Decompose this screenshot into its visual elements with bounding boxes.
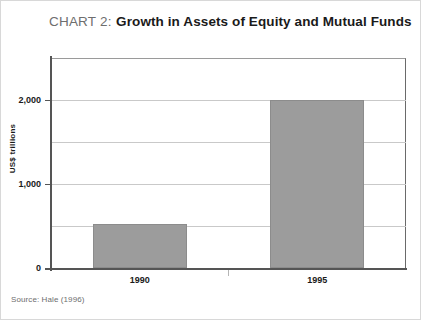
title-main: Growth in Assets of Equity and Mutual Fu…	[116, 14, 412, 29]
y-axis-tick-label: 0	[0, 263, 41, 273]
chart-page: CHART 2: Growth in Assets of Equity and …	[0, 0, 421, 320]
page-title: CHART 2: Growth in Assets of Equity and …	[49, 12, 409, 32]
y-axis-tick-label: 1,000	[0, 179, 41, 189]
x-axis-mid-tick	[228, 270, 229, 276]
x-axis-tick-label: 1990	[80, 275, 200, 285]
y-axis-tick-mark	[45, 100, 51, 101]
x-axis-line	[45, 268, 407, 270]
title-prefix: CHART 2:	[49, 14, 112, 29]
y-axis-tick-mark	[45, 268, 51, 269]
y-axis-line	[50, 56, 52, 271]
y-axis-title: US$ trillions	[8, 114, 17, 184]
y-axis-tick-mark	[45, 184, 51, 185]
bar	[93, 224, 187, 268]
source-note: Source: Hale (1996)	[11, 295, 85, 304]
y-axis-tick-label: 2,000	[0, 95, 41, 105]
bar	[270, 100, 364, 268]
x-axis-tick-label: 1995	[257, 275, 377, 285]
